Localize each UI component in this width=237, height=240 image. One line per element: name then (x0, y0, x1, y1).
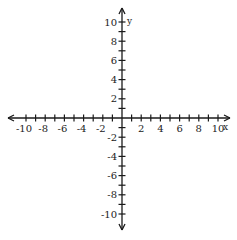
y-tick-label: -4 (107, 151, 117, 162)
x-tick-label: -10 (16, 123, 32, 134)
x-axis-label: x (223, 122, 228, 132)
y-tick-label: -8 (107, 189, 117, 200)
coordinate-plane: -10-8-6-4-2246810108642-2-4-6-8-10 x y (0, 0, 237, 240)
x-tick-label: -4 (77, 123, 87, 134)
x-tick-label: 8 (196, 123, 202, 134)
x-tick-label: 6 (176, 123, 182, 134)
x-tick-label: -6 (58, 123, 68, 134)
y-tick-label: 4 (111, 74, 117, 85)
y-axis-label: y (126, 16, 133, 26)
x-tick-label: 2 (138, 123, 144, 134)
x-tick-label: -8 (38, 123, 48, 134)
y-tick-label: -6 (107, 170, 117, 181)
y-tick-label: -2 (107, 132, 117, 143)
y-tick-label: 6 (111, 55, 117, 66)
x-tick-label: -2 (96, 123, 106, 134)
y-tick-label: 2 (111, 93, 117, 104)
y-tick-label: 10 (104, 17, 117, 28)
y-tick-label: -10 (101, 209, 117, 220)
x-tick-label: 4 (157, 123, 163, 134)
y-tick-label: 8 (111, 36, 117, 47)
